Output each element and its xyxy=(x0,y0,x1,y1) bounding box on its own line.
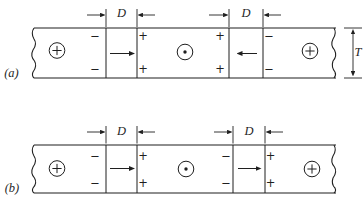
charge-sign: + xyxy=(266,176,276,190)
charge-sign: − xyxy=(221,176,231,190)
dimension-d-label: D xyxy=(243,124,253,138)
charge-sign: − xyxy=(221,149,231,163)
charge-sign: + xyxy=(266,149,276,163)
panel-b-label: (b) xyxy=(5,181,20,195)
charge-sign: + xyxy=(138,176,148,190)
charge-sign: + xyxy=(215,62,225,76)
charge-sign: − xyxy=(264,62,274,76)
panel-a: D D − − + + + + − − xyxy=(4,6,362,80)
figure-canvas: D D − − + + + + − − xyxy=(0,0,364,197)
charge-sign: − xyxy=(264,29,274,43)
strip-torn-left-edge xyxy=(32,145,36,193)
panel-a-label: (a) xyxy=(4,66,19,80)
charge-sign: + xyxy=(138,149,148,163)
circled-dot-icon xyxy=(177,44,193,60)
charge-sign: − xyxy=(90,29,100,43)
circled-dot-icon xyxy=(178,161,194,177)
dimension-d-label: D xyxy=(240,6,250,20)
circled-plus-icon xyxy=(49,43,65,59)
strip-torn-right-edge xyxy=(332,145,336,193)
circled-plus-icon xyxy=(302,43,318,59)
strip-torn-right-edge xyxy=(332,28,336,78)
charge-sign: − xyxy=(90,62,100,76)
charge-sign: − xyxy=(90,176,100,190)
charge-sign: + xyxy=(138,62,148,76)
dimension-d-label: D xyxy=(116,6,126,20)
charge-sign: + xyxy=(215,29,225,43)
circled-plus-icon xyxy=(49,161,65,177)
figure: D D − − + + + + − − xyxy=(0,0,364,197)
thickness-t-label: T xyxy=(355,45,363,59)
panel-b: D D − − + + − − + + xyxy=(5,124,336,196)
circled-plus-icon xyxy=(304,161,320,177)
strip-torn-left-edge xyxy=(32,28,36,78)
charge-sign: − xyxy=(90,149,100,163)
dimension-d-label: D xyxy=(116,124,126,138)
charge-sign: + xyxy=(138,29,148,43)
